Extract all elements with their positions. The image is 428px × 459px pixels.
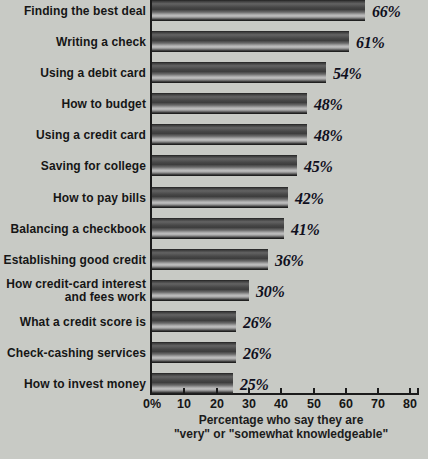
bar-row: Using a debit card54%	[0, 62, 428, 83]
category-label: How to budget	[0, 97, 146, 110]
bar	[152, 155, 297, 176]
x-tick-label: 70	[361, 397, 395, 411]
bar	[152, 218, 284, 239]
category-label: How to invest money	[0, 377, 146, 390]
bar-row: How to invest money25%	[0, 373, 428, 394]
x-axis-caption: Percentage who say they are "very" or "s…	[150, 413, 412, 441]
category-label: What a credit score is	[0, 315, 146, 328]
bar-row: How to pay bills42%	[0, 187, 428, 208]
bar-row: Check-cashing services26%	[0, 342, 428, 363]
value-label: 25%	[240, 374, 268, 394]
bar-row: Balancing a checkbook41%	[0, 218, 428, 239]
x-axis-caption-line2: "very" or "somewhat knowledgeable"	[150, 427, 412, 441]
x-tick	[345, 388, 347, 394]
x-tick-label: 10	[167, 397, 201, 411]
x-tick	[280, 388, 282, 394]
bar-row: What a credit score is26%	[0, 311, 428, 332]
category-label: Using a credit card	[0, 128, 146, 141]
value-label: 61%	[356, 32, 384, 52]
value-label: 66%	[372, 1, 400, 21]
bar	[152, 311, 236, 332]
category-label: Using a debit card	[0, 66, 146, 79]
x-tick-label: 30	[232, 397, 266, 411]
value-label: 41%	[291, 219, 319, 239]
bar	[152, 342, 236, 363]
bar	[152, 249, 268, 270]
value-label: 26%	[243, 312, 271, 332]
x-tick	[183, 388, 185, 394]
category-label: How to pay bills	[0, 191, 146, 204]
value-label: 45%	[304, 156, 332, 176]
x-tick	[409, 388, 411, 394]
category-label: Establishing good credit	[0, 253, 146, 266]
bar-row: Saving for college45%	[0, 155, 428, 176]
x-tick-label: 60	[329, 397, 363, 411]
category-label: Writing a check	[0, 35, 146, 48]
value-label: 36%	[275, 250, 303, 270]
bar	[152, 0, 365, 21]
x-tick	[377, 388, 379, 394]
bar	[152, 31, 349, 52]
category-label: Saving for college	[0, 159, 146, 172]
x-tick-label: 50	[297, 397, 331, 411]
bar-row: Writing a check61%	[0, 31, 428, 52]
value-label: 48%	[314, 125, 342, 145]
knowledge-bar-chart: Finding the best deal66%Writing a check6…	[0, 0, 428, 459]
bar-row: Establishing good credit36%	[0, 249, 428, 270]
bar	[152, 124, 307, 145]
bar-row: Using a credit card48%	[0, 124, 428, 145]
bar-row: How credit-card interest and fees work30…	[0, 280, 428, 301]
value-label: 48%	[314, 94, 342, 114]
bar-row: Finding the best deal66%	[0, 0, 428, 21]
x-tick	[313, 388, 315, 394]
x-tick-label: 80	[393, 397, 427, 411]
category-label: Finding the best deal	[0, 4, 146, 17]
bar	[152, 62, 326, 83]
category-label: How credit-card interest and fees work	[0, 278, 146, 304]
x-tick	[248, 388, 250, 394]
category-label: Balancing a checkbook	[0, 222, 146, 235]
bar	[152, 93, 307, 114]
bar	[152, 373, 233, 394]
x-tick	[216, 388, 218, 394]
category-label: Check-cashing services	[0, 346, 146, 359]
bar-row: How to budget48%	[0, 93, 428, 114]
x-tick-label: 0%	[135, 397, 169, 411]
value-label: 30%	[256, 281, 284, 301]
value-label: 42%	[295, 188, 323, 208]
bar	[152, 280, 249, 301]
value-label: 54%	[333, 63, 361, 83]
x-axis-end-tick	[417, 388, 419, 394]
x-tick-label: 20	[200, 397, 234, 411]
x-tick-label: 40	[264, 397, 298, 411]
value-label: 26%	[243, 343, 271, 363]
bar	[152, 187, 288, 208]
x-axis-caption-line1: Percentage who say they are	[150, 413, 412, 427]
